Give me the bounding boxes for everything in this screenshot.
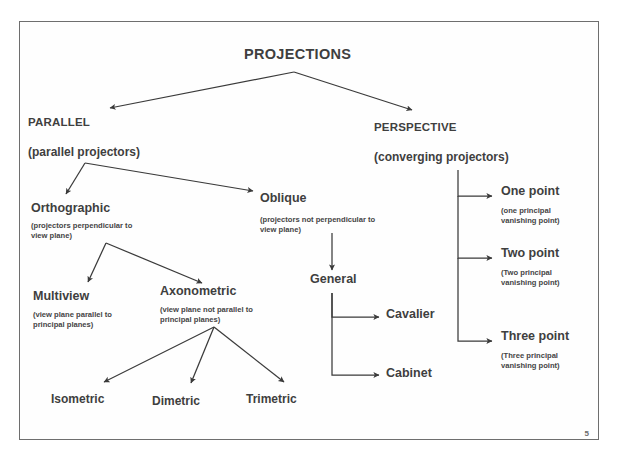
node-trimetric: Trimetric	[246, 392, 297, 406]
node-axonometric: Axonometric	[160, 284, 236, 298]
node-multiview: Multiview	[33, 289, 89, 303]
node-orthographic: Orthographic	[31, 201, 110, 215]
node-oblique-note: (projectors not perpendicular to view pl…	[260, 215, 390, 234]
node-three-point: Three point	[501, 329, 569, 343]
node-parallel-subtitle: (parallel projectors)	[28, 145, 140, 159]
node-orthographic-note: (projectors perpendicular to view plane)	[31, 221, 141, 240]
node-perspective-subtitle: (converging projectors)	[374, 150, 509, 164]
node-three-point-note: (Three principal vanishing point)	[501, 351, 593, 370]
node-axonometric-note: (view plane not parallel to principal pl…	[160, 305, 272, 324]
slide-canvas: PROJECTIONS PARALLEL (parallel projector…	[0, 0, 619, 464]
node-parallel: PARALLEL	[28, 116, 90, 128]
node-perspective: PERSPECTIVE	[374, 121, 457, 133]
node-multiview-note: (view plane parallel to principal planes…	[33, 310, 133, 329]
node-two-point: Two point	[501, 246, 559, 260]
node-two-point-note: (Two principal vanishing point)	[501, 268, 589, 287]
node-dimetric: Dimetric	[152, 394, 200, 408]
page-number: 5	[585, 429, 589, 438]
node-oblique: Oblique	[260, 191, 307, 205]
node-general: General	[310, 272, 357, 286]
node-one-point-note: (one principal vanishing point)	[501, 206, 585, 225]
node-one-point: One point	[501, 184, 559, 198]
node-cavalier: Cavalier	[386, 307, 435, 321]
node-cabinet: Cabinet	[386, 366, 432, 380]
node-projections: PROJECTIONS	[244, 46, 351, 62]
node-isometric: Isometric	[51, 392, 104, 406]
